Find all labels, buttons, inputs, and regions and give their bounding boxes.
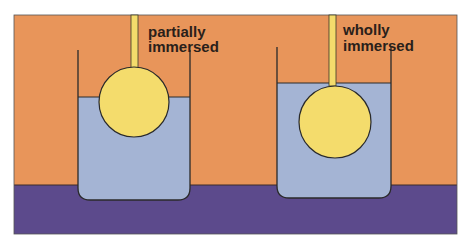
ball bbox=[99, 67, 169, 137]
label-partially: partially bbox=[148, 24, 206, 39]
label-immersed-left: immersed bbox=[148, 39, 219, 54]
ball bbox=[299, 86, 371, 158]
rod bbox=[131, 15, 138, 69]
label-immersed-right: immersed bbox=[343, 38, 414, 53]
label-wholly: wholly bbox=[343, 22, 390, 37]
rod bbox=[329, 15, 336, 86]
